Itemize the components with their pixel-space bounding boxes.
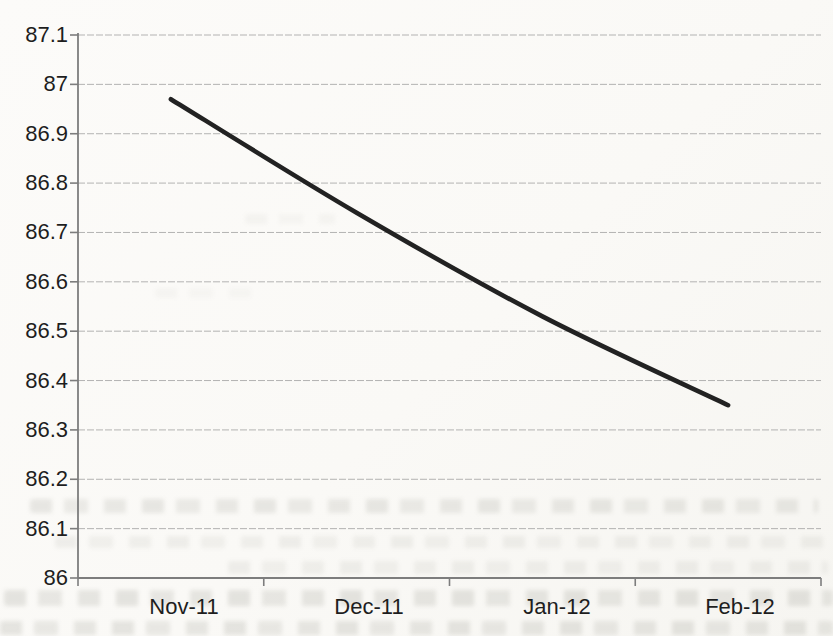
y-axis-tick-label: 86.3 xyxy=(0,419,68,441)
scanned-page: 87.1 87 86.9 86.8 86.7 86.6 86.5 86.4 86… xyxy=(0,0,833,636)
y-axis-tick-label: 87.1 xyxy=(0,24,68,46)
y-axis-tick-label: 86.1 xyxy=(0,518,68,540)
x-axis-tick-label: Feb-12 xyxy=(690,596,790,618)
x-axis-tick-label: Dec-11 xyxy=(319,596,419,618)
y-axis-tick-label: 86.8 xyxy=(0,172,68,194)
y-axis-tick-label: 87 xyxy=(0,73,68,95)
y-axis-tick-label: 86.6 xyxy=(0,271,68,293)
x-axis-tick-label: Nov-11 xyxy=(134,596,234,618)
y-axis-tick-label: 86.4 xyxy=(0,370,68,392)
y-axis-tick-label: 86.5 xyxy=(0,320,68,342)
x-axis-tick-label: Jan-12 xyxy=(507,596,607,618)
y-axis-tick-label: 86.2 xyxy=(0,468,68,490)
chart-plot-area xyxy=(0,0,833,636)
data-line-series xyxy=(171,99,728,405)
y-axis-tick-label: 86 xyxy=(0,567,68,589)
line-chart: 87.1 87 86.9 86.8 86.7 86.6 86.5 86.4 86… xyxy=(0,0,833,636)
y-axis-tick-label: 86.7 xyxy=(0,221,68,243)
y-axis-tick-label: 86.9 xyxy=(0,123,68,145)
